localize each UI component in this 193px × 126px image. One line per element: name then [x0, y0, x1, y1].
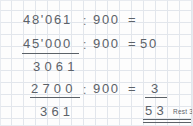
subtraction-rule-2: [30, 97, 80, 98]
row4-equals-sign: =: [128, 82, 137, 96]
row4-divisor: 900: [93, 82, 120, 96]
result-double-rule-top: [143, 119, 191, 120]
row4-partial-quotient: 3: [151, 82, 160, 96]
quotient-rule: [145, 97, 167, 98]
row2-dividend: 45'000: [23, 37, 72, 51]
subtraction-rule-1: [22, 53, 79, 54]
row1-equals-sign: =: [128, 13, 137, 27]
row1-divisor: 900: [93, 13, 120, 27]
row2-partial-quotient: 50: [140, 37, 158, 51]
row4-division-operator: :: [83, 83, 88, 97]
row2-divisor: 900: [93, 37, 120, 51]
row5-total-quotient: 53: [145, 104, 168, 118]
row2-division-operator: :: [83, 38, 88, 52]
row4-dividend: 2700: [31, 82, 77, 96]
rest-label: Rest 361: [173, 108, 193, 116]
row1-dividend: 48'061: [23, 13, 72, 27]
graph-paper-sheet: 48'061 : 900 = 45'000 : 900 = 50 3061 27…: [0, 0, 193, 126]
row3-intermediate-remainder: 3061: [33, 60, 79, 74]
division-work-area: 48'061 : 900 = 45'000 : 900 = 50 3061 27…: [0, 0, 193, 126]
row1-division-operator: :: [83, 14, 88, 28]
result-double-rule-bottom: [143, 122, 191, 123]
row2-equals-sign: =: [128, 37, 137, 51]
row5-final-remainder: 361: [40, 105, 74, 119]
